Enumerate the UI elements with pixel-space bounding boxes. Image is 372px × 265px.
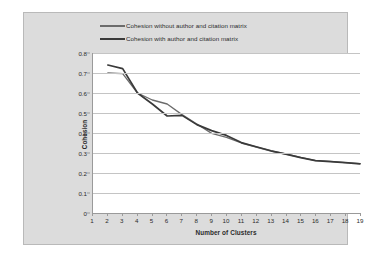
plot-container: Cohesion 00.10.20.30.40.50.60.70.8 12345… [70,53,361,225]
x-axis-tick-label: 7 [180,217,183,224]
x-axis-tick-label: 16 [312,217,319,224]
y-axis-tick-mark [87,133,90,134]
series-line-1 [108,73,360,164]
x-axis-tick-mark [166,213,167,216]
gridline [93,133,360,134]
gridline [93,153,360,154]
x-axis-tick-label: 13 [267,217,274,224]
x-axis-tick-mark [152,213,153,216]
plot-area [92,53,360,213]
legend-label-series-2: Cohesion with author and citation matrix [126,35,238,42]
x-axis-tick-mark [181,213,182,216]
x-axis-tick-label: 5 [150,217,153,224]
x-axis-tick-mark [256,213,257,216]
y-axis-tick-mark [87,173,90,174]
x-axis-ticks: 12345678910111213141516171819 [92,213,360,227]
x-axis-tick-label: 9 [209,217,212,224]
x-axis-tick-mark [107,213,108,216]
x-axis-tick-mark [226,213,227,216]
x-axis-tick-label: 19 [357,217,364,224]
x-axis-tick-mark [330,213,331,216]
y-axis-tick-mark [87,113,90,114]
x-axis-tick-label: 18 [342,217,349,224]
y-axis-ticks: 00.10.20.30.40.50.60.70.8 [70,53,90,213]
x-axis-tick-label: 8 [194,217,197,224]
gridline [93,93,360,94]
x-axis-tick-mark [360,213,361,216]
x-axis-tick-mark [286,213,287,216]
x-axis-tick-mark [315,213,316,216]
series-line-2 [108,65,360,164]
x-axis-tick-mark [211,213,212,216]
legend-line-swatch-series-2 [100,38,125,40]
y-axis-tick-label: 0.5 [78,110,87,117]
y-axis-tick-mark [87,213,90,214]
chart-panel: Cohesion without author and citation mat… [23,12,348,245]
y-axis-tick-label: 0.3 [78,150,87,157]
x-axis-tick-label: 15 [297,217,304,224]
x-axis-tick-label: 11 [238,217,244,224]
y-axis-tick-mark [87,153,90,154]
x-axis-tick-label: 3 [120,217,123,224]
x-axis-tick-mark [196,213,197,216]
x-axis-tick-mark [300,213,301,216]
y-axis-tick-label: 0.6 [78,90,87,97]
legend-entry: Cohesion with author and citation matrix [100,32,330,45]
y-axis-tick-label: 0.7 [78,70,87,77]
gridline [93,73,360,74]
gridline [93,193,360,194]
chart-legend: Cohesion without author and citation mat… [100,19,330,45]
x-axis-tick-label: 14 [282,217,289,224]
y-axis-tick-label: 0.8 [78,50,87,57]
x-axis-tick-mark [271,213,272,216]
x-axis-tick-mark [92,213,93,216]
x-axis-tick-label: 4 [135,217,138,224]
gridline [93,53,360,54]
x-axis-title: Number of Clusters [92,229,360,236]
y-axis-tick-mark [87,193,90,194]
gridline [93,173,360,174]
y-axis-tick-label: 0.4 [78,130,87,137]
y-axis-tick-label: 0.2 [78,170,87,177]
x-axis-tick-label: 1 [90,217,93,224]
x-axis-tick-label: 2 [105,217,108,224]
legend-label-series-1: Cohesion without author and citation mat… [126,22,247,29]
legend-line-swatch-series-1 [100,25,125,27]
x-axis-tick-label: 12 [252,217,259,224]
legend-entry: Cohesion without author and citation mat… [100,19,330,32]
x-axis-tick-mark [122,213,123,216]
gridline [93,113,360,114]
x-axis-tick-label: 10 [223,217,230,224]
y-axis-tick-mark [87,53,90,54]
x-axis-tick-label: 17 [327,217,334,224]
x-axis-tick-mark [137,213,138,216]
x-axis-tick-mark [345,213,346,216]
y-axis-tick-mark [87,73,90,74]
y-axis-tick-label: 0.1 [78,190,87,197]
x-axis-tick-mark [241,213,242,216]
y-axis-tick-mark [87,93,90,94]
x-axis-tick-label: 6 [165,217,168,224]
